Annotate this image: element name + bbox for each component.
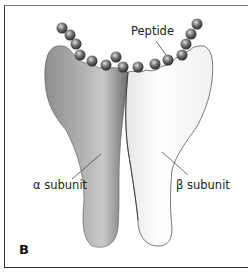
peptide-bead <box>150 59 161 70</box>
peptide-bead <box>75 50 86 61</box>
peptide-leader-line <box>156 41 166 55</box>
peptide-bead <box>186 29 197 40</box>
peptide-bead <box>101 60 112 71</box>
peptide-bead <box>181 39 192 50</box>
panel-label: B <box>19 242 29 257</box>
alpha-subunit-label: α subunit <box>33 180 87 192</box>
peptide-label: Peptide <box>131 26 174 38</box>
peptide-bead <box>163 55 174 66</box>
beta-subunit-label: β subunit <box>176 180 230 192</box>
peptide-bead <box>87 56 98 67</box>
peptide-bead <box>65 30 76 41</box>
peptide-bead <box>177 50 188 61</box>
peptide-bead <box>111 52 122 63</box>
peptide-bead <box>71 39 82 50</box>
peptide-bead <box>118 62 129 73</box>
peptide-bead <box>133 62 144 73</box>
beta-subunit-shape <box>126 46 213 246</box>
mhc-diagram <box>0 0 250 278</box>
alpha-subunit-shape <box>45 46 128 247</box>
peptide-bead <box>192 19 203 30</box>
